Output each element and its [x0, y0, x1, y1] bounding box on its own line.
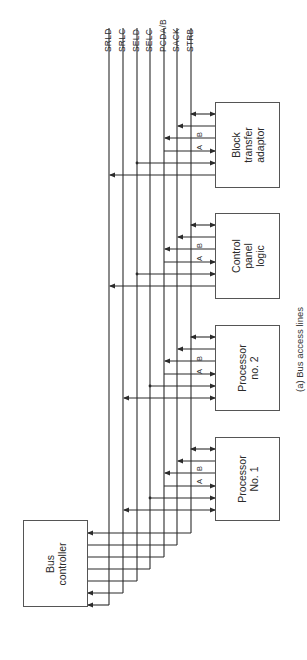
port-b-label-p1: B: [195, 466, 204, 471]
bus-controller-label: Bus controller: [44, 542, 68, 585]
device-connections: [110, 114, 215, 510]
port-b-label-p2: B: [195, 356, 204, 361]
processor-1-label: Processor No. 1: [236, 455, 260, 502]
bus-label-sack: SACK: [171, 28, 181, 52]
bus-label-selc: SELC: [144, 29, 154, 52]
port-a-label-cpl: A: [195, 256, 204, 261]
bus-label-pcdab: PCDA/B: [158, 19, 168, 52]
processor-2-label: Processor no. 2: [236, 344, 260, 391]
port-a-label-p1: A: [195, 479, 204, 484]
bus-lines: [88, 28, 191, 605]
bus-label-srld: SRLD: [103, 29, 113, 52]
control-panel-logic-label: Control panel logic: [230, 239, 266, 273]
block-transfer-adaptor-label: Block transfer adaptor: [230, 127, 266, 163]
port-b-label-cpl: B: [195, 243, 204, 248]
port-a-label-bta: A: [195, 145, 204, 150]
bus-label-srlc: SRLC: [117, 29, 127, 52]
port-a-label-p2: A: [195, 369, 204, 374]
control-panel-logic-box: Control panel logic: [215, 213, 280, 299]
bus-label-strb: STRB: [185, 29, 195, 52]
processor-2-box: Processor no. 2: [215, 325, 280, 411]
processor-1-box: Processor No. 1: [215, 437, 280, 521]
bus-controller-box: Bus controller: [23, 520, 88, 607]
block-transfer-adaptor-box: Block transfer adaptor: [215, 102, 280, 188]
bus-label-seld: SELD: [131, 29, 141, 52]
port-b-label-bta: B: [195, 132, 204, 137]
figure-caption: (a) Bus access lines: [294, 307, 305, 392]
